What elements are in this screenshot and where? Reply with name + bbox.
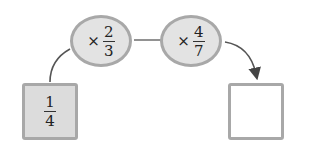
fraction: 1 4 (44, 94, 56, 129)
start-to-op1-line (50, 49, 70, 82)
fraction: 4 7 (193, 24, 205, 59)
denominator: 4 (45, 113, 55, 129)
operation-multiply-4-7: × 4 7 (160, 15, 222, 67)
operation-multiply-2-3: × 2 3 (70, 15, 132, 67)
denominator: 3 (104, 43, 114, 59)
numerator: 1 (45, 94, 55, 110)
multiply-sign: × (87, 32, 100, 50)
start-value-box: 1 4 (22, 83, 78, 140)
fraction: 2 3 (103, 24, 115, 59)
multiply-sign: × (177, 32, 190, 50)
op2-to-result-arrow (225, 42, 256, 74)
numerator: 2 (104, 24, 114, 40)
denominator: 7 (194, 43, 204, 59)
result-answer-box[interactable] (228, 83, 284, 140)
numerator: 4 (194, 24, 204, 40)
